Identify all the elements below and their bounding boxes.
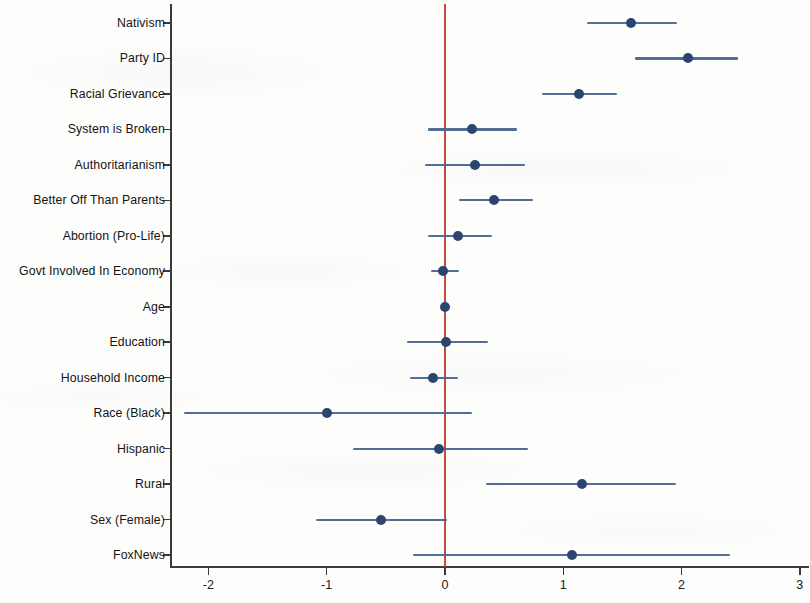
x-axis-tick-label: -1	[321, 578, 333, 592]
y-axis-category-label: System is Broken	[68, 122, 165, 136]
coefficient-row	[170, 325, 810, 359]
y-axis-category-label: Party ID	[120, 51, 165, 65]
coefficient-point	[470, 160, 480, 170]
x-axis-tick-label: -2	[203, 578, 215, 592]
coefficient-point	[567, 550, 577, 560]
y-axis-category-label: Household Income	[61, 371, 165, 385]
x-axis-tick-label: 1	[560, 578, 567, 592]
coefficient-row	[170, 503, 810, 537]
coefficient-row	[170, 6, 810, 40]
coefficient-point	[428, 373, 438, 383]
coefficient-plot-figure: NativismParty IDRacial GrievanceSystem i…	[0, 0, 810, 603]
y-axis-category-label: Better Off Than Parents	[33, 193, 165, 207]
x-axis-tick-label: 3	[796, 578, 803, 592]
y-axis-category-label: FoxNews	[113, 548, 165, 562]
coefficient-point	[434, 444, 444, 454]
y-axis-category-label: Race (Black)	[93, 406, 165, 420]
y-axis-category-label: Sex (Female)	[90, 513, 165, 527]
y-axis-category-label: Rural	[135, 477, 165, 491]
coefficient-point	[574, 89, 584, 99]
coefficient-row	[170, 254, 810, 288]
coefficient-point	[453, 231, 463, 241]
coefficient-row	[170, 77, 810, 111]
y-axis-category-label: Govt Involved In Economy	[19, 264, 165, 278]
coefficient-point	[626, 18, 636, 28]
coefficient-row	[170, 290, 810, 324]
coefficient-point	[577, 479, 587, 489]
coefficient-point	[440, 302, 450, 312]
coefficient-point	[438, 266, 448, 276]
y-axis-category-label: Abortion (Pro-Life)	[63, 229, 165, 243]
y-axis-category-label: Authoritarianism	[75, 158, 165, 172]
coefficient-point	[683, 53, 693, 63]
y-axis-category-label: Nativism	[117, 16, 165, 30]
coefficient-point	[441, 337, 451, 347]
coefficient-point	[376, 515, 386, 525]
y-axis-category-label: Age	[143, 300, 165, 314]
x-axis-tick-label: 2	[678, 578, 685, 592]
y-axis-category-label: Hispanic	[117, 442, 165, 456]
coefficient-row	[170, 361, 810, 395]
coefficient-point	[467, 124, 477, 134]
coefficient-point	[489, 195, 499, 205]
coefficient-point	[322, 408, 332, 418]
y-axis-category-label: Racial Grievance	[70, 87, 165, 101]
plot-area: NativismParty IDRacial GrievanceSystem i…	[0, 0, 810, 603]
x-axis-tick-label: 0	[441, 578, 448, 592]
y-axis-category-label: Education	[109, 335, 165, 349]
